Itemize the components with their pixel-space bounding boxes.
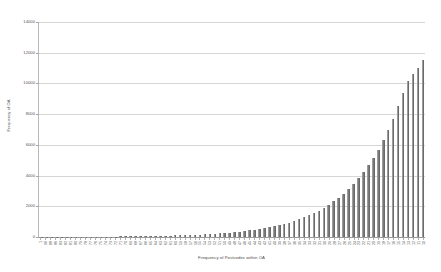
y-axis-tick-label: 2000 xyxy=(26,204,35,208)
bar[interactable] xyxy=(179,235,182,237)
bar[interactable] xyxy=(367,165,370,237)
x-axis-tick-mark xyxy=(145,238,146,240)
bar[interactable] xyxy=(55,237,58,238)
bar[interactable] xyxy=(352,184,355,237)
bar[interactable] xyxy=(417,68,420,237)
x-axis-tick-mark xyxy=(50,238,51,240)
bar[interactable] xyxy=(422,60,425,237)
bar[interactable] xyxy=(327,205,330,237)
bar[interactable] xyxy=(80,237,83,238)
x-axis-tick-mark xyxy=(289,238,290,240)
bar[interactable] xyxy=(199,235,202,237)
bar[interactable] xyxy=(313,213,316,237)
bar[interactable] xyxy=(209,234,212,237)
x-axis-tick-mark xyxy=(195,238,196,240)
bar[interactable] xyxy=(223,233,226,237)
bar[interactable] xyxy=(248,230,251,237)
bar[interactable] xyxy=(288,223,291,237)
x-axis-tick-mark xyxy=(175,238,176,240)
bar[interactable] xyxy=(139,236,142,237)
bar[interactable] xyxy=(204,234,207,237)
bar[interactable] xyxy=(308,215,311,237)
bar[interactable] xyxy=(144,236,147,237)
x-axis-tick-mark xyxy=(110,238,111,240)
bar[interactable] xyxy=(258,229,261,237)
bar[interactable] xyxy=(387,130,390,237)
bar[interactable] xyxy=(283,224,286,237)
bar[interactable] xyxy=(228,233,231,237)
bar[interactable] xyxy=(70,237,73,238)
bar[interactable] xyxy=(95,237,98,238)
x-axis-tick-mark xyxy=(204,238,205,240)
x-axis-tick-mark xyxy=(354,238,355,240)
bar[interactable] xyxy=(134,236,137,237)
bar[interactable] xyxy=(110,237,113,238)
bar[interactable] xyxy=(362,172,365,237)
bar[interactable] xyxy=(129,236,132,237)
bar[interactable] xyxy=(105,237,108,238)
bar[interactable] xyxy=(278,225,281,237)
bar[interactable] xyxy=(323,208,326,237)
bar[interactable] xyxy=(303,217,306,237)
bar[interactable] xyxy=(233,232,236,237)
x-axis-tick-mark xyxy=(373,238,374,240)
bar[interactable] xyxy=(114,237,117,238)
bar[interactable] xyxy=(357,178,360,237)
bar[interactable] xyxy=(214,234,217,237)
bar[interactable] xyxy=(174,235,177,237)
bar[interactable] xyxy=(124,236,127,237)
x-axis-tick-mark xyxy=(259,238,260,240)
bar[interactable] xyxy=(243,231,246,237)
bar[interactable] xyxy=(298,219,301,237)
bar[interactable] xyxy=(293,221,296,237)
x-axis-tick-mark xyxy=(55,238,56,240)
bar[interactable] xyxy=(402,93,405,237)
bar[interactable] xyxy=(159,236,162,237)
bar[interactable] xyxy=(45,237,48,238)
y-axis-tick-label: 4000 xyxy=(26,173,35,177)
bar[interactable] xyxy=(392,119,395,237)
x-axis-tick-mark xyxy=(249,238,250,240)
bar[interactable] xyxy=(149,236,152,237)
x-axis-tick-mark xyxy=(383,238,384,240)
bar-series xyxy=(39,22,425,237)
bar[interactable] xyxy=(75,237,78,238)
bar[interactable] xyxy=(65,237,68,238)
bar[interactable] xyxy=(189,235,192,237)
bar[interactable] xyxy=(184,235,187,237)
bar[interactable] xyxy=(337,198,340,237)
bar[interactable] xyxy=(412,74,415,237)
bar[interactable] xyxy=(263,228,266,237)
bar[interactable] xyxy=(382,140,385,237)
bar[interactable] xyxy=(219,233,222,237)
bar[interactable] xyxy=(407,81,410,237)
bar[interactable] xyxy=(318,211,321,237)
bar[interactable] xyxy=(60,237,63,238)
bar[interactable] xyxy=(50,237,53,238)
bar[interactable] xyxy=(268,227,271,237)
x-axis-tick-mark xyxy=(309,238,310,240)
x-axis-tick-mark xyxy=(105,238,106,240)
bar[interactable] xyxy=(273,226,276,237)
bar[interactable] xyxy=(347,189,350,237)
bar[interactable] xyxy=(154,236,157,237)
bar[interactable] xyxy=(119,236,122,237)
bar[interactable] xyxy=(397,106,400,237)
bar[interactable] xyxy=(377,150,380,237)
bar[interactable] xyxy=(169,236,172,237)
bar[interactable] xyxy=(164,236,167,237)
x-axis-tick-mark xyxy=(344,238,345,240)
bar[interactable] xyxy=(372,158,375,237)
bar[interactable] xyxy=(100,237,103,238)
bar[interactable] xyxy=(332,201,335,237)
bar[interactable] xyxy=(90,237,93,238)
bar[interactable] xyxy=(85,237,88,238)
x-axis-tick-mark xyxy=(160,238,161,240)
bar[interactable] xyxy=(194,235,197,237)
bar[interactable] xyxy=(40,237,43,238)
x-axis-tick-mark xyxy=(180,238,181,240)
bar[interactable] xyxy=(238,232,241,237)
x-axis-tick-mark xyxy=(135,238,136,240)
bar[interactable] xyxy=(253,230,256,237)
bar[interactable] xyxy=(342,194,345,237)
